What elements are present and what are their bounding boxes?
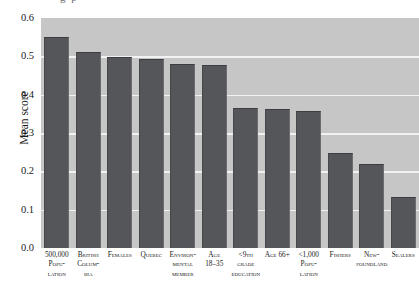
bar-chart-figure: g p Mean score 0.00.10.20.30.40.50.6 500…	[0, 0, 419, 297]
cropped-title-remnant: g p	[60, 0, 78, 3]
y-tick-label: 0.6	[21, 13, 34, 23]
x-axis-tick-labels: 500,000Popu-lationBritishColum-biaFemale…	[41, 250, 419, 297]
bar	[296, 111, 321, 248]
y-axis-tick-labels: 0.00.10.20.30.40.50.6	[0, 0, 38, 297]
y-tick-label: 0.1	[21, 205, 34, 215]
bar	[170, 64, 195, 248]
bar	[44, 37, 69, 248]
bar	[359, 164, 384, 248]
bar	[391, 197, 416, 248]
bar-series	[41, 18, 419, 248]
x-tick-label: Sealers	[385, 250, 419, 259]
y-tick-label: 0.4	[21, 90, 34, 100]
bar	[76, 52, 101, 248]
y-tick-label: 0.3	[21, 128, 34, 138]
bar	[139, 59, 164, 248]
bar	[328, 153, 353, 248]
bar	[202, 65, 227, 248]
bar	[233, 108, 258, 248]
plot-area	[41, 18, 419, 248]
bar	[265, 109, 290, 248]
y-tick-label: 0.0	[21, 243, 34, 253]
y-tick-label: 0.5	[21, 51, 34, 61]
bar	[107, 57, 132, 248]
y-tick-label: 0.2	[21, 166, 34, 176]
